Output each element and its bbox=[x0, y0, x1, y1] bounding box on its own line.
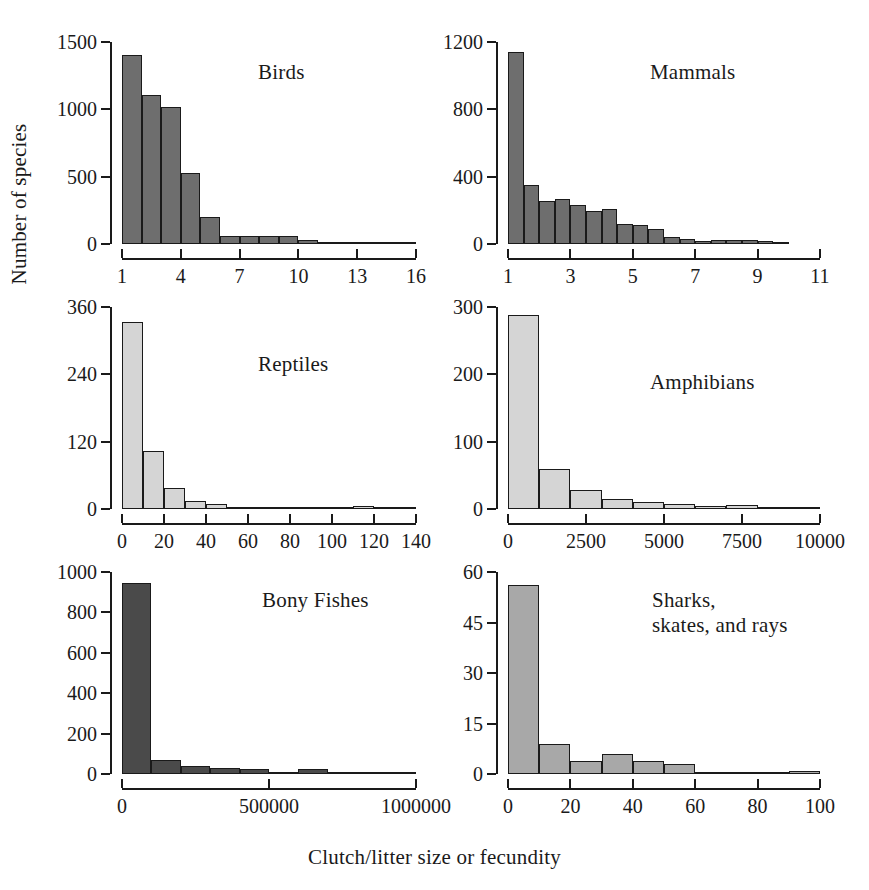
x-axis-line-reptiles bbox=[122, 523, 416, 525]
y-tick-amphibians bbox=[487, 306, 496, 308]
y-tick-label-reptiles: 120 bbox=[0, 432, 97, 452]
y-tick-label-mammals: 0 bbox=[368, 234, 483, 254]
y-tick-label-sharks-skates-and-rays: 30 bbox=[368, 663, 483, 683]
bar bbox=[602, 754, 633, 774]
y-tick-label-amphibians: 100 bbox=[368, 432, 483, 452]
x-tick-amphibians bbox=[585, 514, 587, 523]
bar bbox=[206, 504, 227, 509]
y-tick-mammals bbox=[487, 108, 496, 110]
y-tick-label-reptiles: 0 bbox=[0, 499, 97, 519]
bar bbox=[789, 507, 820, 509]
y-tick-birds bbox=[101, 243, 110, 245]
y-tick-label-bony-fishes: 400 bbox=[0, 683, 97, 703]
x-axis-line-sharks-skates-and-rays bbox=[508, 788, 820, 790]
y-axis-line-reptiles bbox=[110, 307, 112, 509]
y-tick-bony-fishes bbox=[101, 611, 110, 613]
bar bbox=[240, 236, 260, 244]
x-axis-line-amphibians bbox=[508, 523, 820, 525]
bar bbox=[298, 240, 318, 244]
x-axis-line-birds bbox=[122, 258, 416, 260]
x-tick-mammals bbox=[507, 249, 509, 258]
x-tick-amphibians bbox=[663, 514, 665, 523]
y-tick-bony-fishes bbox=[101, 692, 110, 694]
x-tick-birds bbox=[297, 249, 299, 258]
x-tick-mammals bbox=[569, 249, 571, 258]
bar bbox=[508, 52, 524, 244]
y-tick-label-bony-fishes: 600 bbox=[0, 643, 97, 663]
bar bbox=[298, 769, 327, 774]
y-tick-label-sharks-skates-and-rays: 60 bbox=[368, 562, 483, 582]
y-tick-amphibians bbox=[487, 441, 496, 443]
panel-title-sharks-skates-and-rays: Sharks, skates, and rays bbox=[652, 588, 788, 638]
x-tick-sharks-skates-and-rays bbox=[757, 779, 759, 788]
bar bbox=[602, 209, 618, 244]
figure-x-axis-label: Clutch/litter size or fecundity bbox=[0, 845, 869, 870]
bar bbox=[664, 504, 695, 509]
panel-title-birds: Birds bbox=[258, 60, 305, 85]
bar bbox=[664, 764, 695, 774]
bar bbox=[240, 769, 269, 774]
x-tick-reptiles bbox=[163, 514, 165, 523]
y-axis-line-bony-fishes bbox=[110, 572, 112, 774]
bar bbox=[570, 490, 601, 509]
x-tick-reptiles bbox=[121, 514, 123, 523]
x-tick-mammals bbox=[757, 249, 759, 258]
bar bbox=[318, 242, 338, 244]
plot-area-amphibians bbox=[508, 307, 820, 509]
x-tick-sharks-skates-and-rays bbox=[819, 779, 821, 788]
y-tick-amphibians bbox=[487, 373, 496, 375]
y-tick-label-birds: 0 bbox=[0, 234, 97, 254]
y-tick-birds bbox=[101, 176, 110, 178]
bar bbox=[142, 95, 162, 244]
bar bbox=[539, 201, 555, 244]
bar bbox=[248, 507, 269, 509]
bar bbox=[633, 502, 664, 509]
bar bbox=[227, 507, 248, 509]
x-tick-amphibians bbox=[741, 514, 743, 523]
bar bbox=[726, 240, 742, 244]
y-tick-label-birds: 1000 bbox=[0, 99, 97, 119]
x-tick-label-bony-fishes: 0 bbox=[62, 796, 182, 816]
x-tick-label-amphibians: 10000 bbox=[760, 531, 869, 551]
x-tick-label-sharks-skates-and-rays: 100 bbox=[760, 796, 869, 816]
bar bbox=[648, 229, 664, 244]
bar bbox=[695, 506, 726, 509]
y-tick-sharks-skates-and-rays bbox=[487, 723, 496, 725]
bar bbox=[181, 173, 201, 244]
bar bbox=[726, 772, 757, 774]
y-tick-label-sharks-skates-and-rays: 15 bbox=[368, 714, 483, 734]
y-tick-label-bony-fishes: 800 bbox=[0, 602, 97, 622]
bar bbox=[633, 761, 664, 774]
y-tick-reptiles bbox=[101, 441, 110, 443]
y-tick-label-sharks-skates-and-rays: 45 bbox=[368, 613, 483, 633]
bar bbox=[269, 772, 298, 774]
y-tick-sharks-skates-and-rays bbox=[487, 773, 496, 775]
y-tick-label-bony-fishes: 0 bbox=[0, 764, 97, 784]
bar bbox=[332, 507, 353, 509]
bar bbox=[633, 225, 649, 244]
y-axis-line-birds bbox=[110, 42, 112, 244]
y-tick-sharks-skates-and-rays bbox=[487, 571, 496, 573]
y-tick-label-reptiles: 240 bbox=[0, 364, 97, 384]
y-tick-mammals bbox=[487, 41, 496, 43]
bar bbox=[711, 240, 727, 244]
bar bbox=[164, 488, 185, 509]
bar bbox=[181, 766, 210, 774]
x-tick-mammals bbox=[632, 249, 634, 258]
bar bbox=[539, 744, 570, 774]
x-tick-bony-fishes bbox=[121, 779, 123, 788]
bar bbox=[773, 242, 789, 244]
bar bbox=[680, 239, 696, 244]
y-tick-label-mammals: 400 bbox=[368, 167, 483, 187]
x-tick-mammals bbox=[694, 249, 696, 258]
bar bbox=[200, 217, 220, 244]
x-tick-sharks-skates-and-rays bbox=[569, 779, 571, 788]
bar bbox=[210, 768, 239, 774]
figure-panel-grid: Number of species Clutch/litter size or … bbox=[0, 0, 869, 890]
bar bbox=[338, 242, 358, 244]
y-tick-sharks-skates-and-rays bbox=[487, 622, 496, 624]
bar bbox=[758, 241, 774, 244]
y-tick-label-birds: 1500 bbox=[0, 32, 97, 52]
y-tick-label-bony-fishes: 200 bbox=[0, 724, 97, 744]
bar bbox=[524, 185, 540, 244]
